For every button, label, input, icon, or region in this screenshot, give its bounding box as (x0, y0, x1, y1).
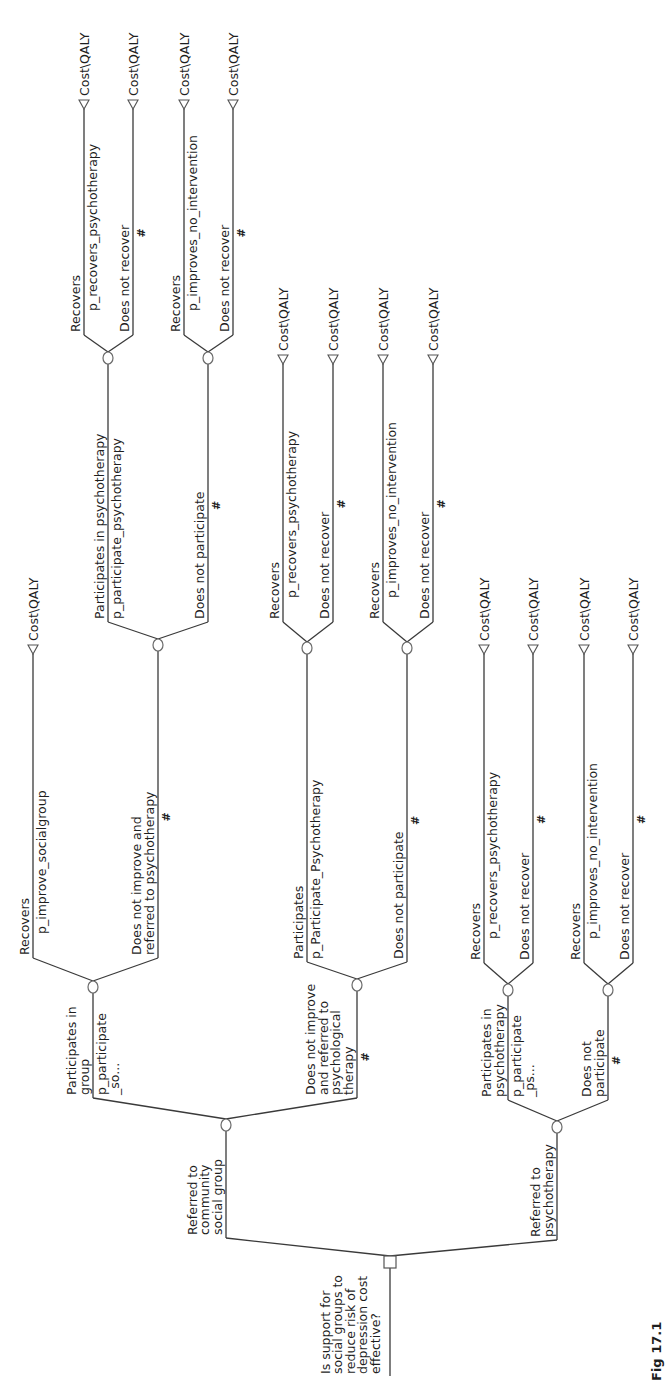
branch-label-t8: Does not recover (417, 511, 432, 619)
edge-diagonal-t9 (484, 963, 508, 984)
decision-tree-diagram: Referred tocommunitysocial groupReferred… (0, 0, 667, 1381)
terminal-node-icon-recovers-sg[interactable] (28, 645, 38, 654)
chance-node-participates-c[interactable] (503, 984, 513, 996)
figure-caption: Fig 17.1 (649, 1322, 664, 1381)
probability-label-t7: p_improves_no_intervention (384, 422, 399, 598)
probability-label-recovers-sg: p_improve_socialgroup (34, 790, 49, 934)
branch-label-community: Referred tocommunitysocial group (185, 1159, 225, 1235)
probability-label-t1: p_recovers_psychotherapy (85, 143, 100, 311)
terminal-node-icon-t10[interactable] (528, 645, 538, 654)
probability-label-notimprove-psych: # (359, 1052, 372, 1061)
payoff-label-t7: Cost\QALY (376, 287, 391, 351)
terminal-node-icon-t1[interactable] (79, 100, 89, 109)
branch-label-t3: Recovers (168, 275, 183, 332)
chance-node-notimprove-psych[interactable] (352, 979, 362, 991)
branch-label-notimprove-referred: Does not improve andreferred to psychoth… (129, 791, 157, 955)
probability-label-t3: p_improves_no_intervention (185, 135, 200, 311)
terminal-node-icon-t4[interactable] (228, 100, 238, 109)
chance-node-notparticipate-b[interactable] (402, 642, 412, 654)
branch-label-t4: Does not recover (217, 224, 232, 332)
figure-caption-fragment: Fig 17.1 (649, 1322, 664, 1381)
branch-label-t12: Does not recover (617, 852, 632, 960)
probability-label-participates-group: p_participate_so... (94, 1013, 122, 1096)
root-question-label: Is support forsocial groups toreduce ris… (318, 1275, 383, 1374)
payoff-label-t2: Cost\QALY (126, 32, 141, 96)
payoff-label-t1: Cost\QALY (77, 32, 92, 96)
payoff-label-t8: Cost\QALY (426, 287, 441, 351)
chance-node-notparticipate-c[interactable] (603, 984, 613, 996)
edge-diagonal-t6 (307, 622, 333, 642)
terminal-node-icon-t3[interactable] (179, 100, 189, 109)
payoff-label-t3: Cost\QALY (177, 32, 192, 96)
branch-label-t6: Does not recover (317, 511, 332, 619)
edge-diagonal-t8 (407, 622, 433, 642)
terminal-node-icon-t5[interactable] (278, 355, 288, 364)
probability-label-participates-b: p_Participate_Psychotherapy (308, 779, 323, 959)
probability-label-t4: # (235, 228, 248, 237)
probability-label-t8: # (435, 499, 448, 508)
terminal-node-icon-t2[interactable] (128, 100, 138, 109)
payoff-label-t11: Cost\QALY (577, 577, 592, 641)
branch-label-participates-psy-a: Participates in psychotherapy (92, 433, 107, 619)
branch-label-t11: Recovers (568, 903, 583, 960)
branch-label-recovers-sg: Recovers (17, 898, 32, 955)
probability-label-participates-c: p_participate_ps... (509, 1015, 537, 1098)
edge-diagonal-t7 (383, 622, 407, 642)
probability-label-notparticipate-b: # (409, 816, 422, 825)
payoff-label-t5: Cost\QALY (276, 287, 291, 351)
probability-label-notparticipate-c: # (610, 1056, 623, 1065)
branch-label-participates-c: Participates inpsychotherapy (479, 1003, 507, 1097)
chance-node-participates-psy-a[interactable] (103, 352, 113, 364)
terminal-node-icon-t6[interactable] (328, 355, 338, 364)
probability-label-t10: # (535, 815, 548, 824)
branch-label-notparticipate-a: Does not participate (192, 491, 207, 619)
probability-label-t9: p_recovers_psychotherapy (485, 771, 500, 939)
terminal-node-icon-t11[interactable] (579, 645, 589, 654)
chance-node-participates-group[interactable] (88, 981, 98, 993)
edge-diagonal-t12 (608, 963, 633, 984)
terminal-node-icon-t7[interactable] (378, 355, 388, 364)
edge-diagonal-participates-group (93, 1098, 226, 1119)
edge-diagonal-t1 (84, 335, 108, 352)
probability-label-t2: # (135, 228, 148, 237)
branch-label-t2: Does not recover (117, 224, 132, 332)
decision-node-square[interactable] (384, 1256, 396, 1268)
chance-node-participates-b[interactable] (302, 642, 312, 654)
edge-diagonal-notparticipate-c (557, 1100, 608, 1121)
branch-label-t9: Recovers (468, 903, 483, 960)
edge-diagonal-t10 (508, 963, 533, 984)
probability-label-t6: # (335, 499, 348, 508)
edge-diagonal-notimprove-psych (226, 1098, 357, 1119)
payoff-label-t4: Cost\QALY (226, 32, 241, 96)
edge-diagonal-psychotherapy (390, 1240, 557, 1256)
payoff-label-t9: Cost\QALY (477, 577, 492, 641)
terminal-node-icon-t12[interactable] (628, 645, 638, 654)
payoff-label-t6: Cost\QALY (326, 287, 341, 351)
edge-diagonal-community (226, 1238, 390, 1256)
edge-diagonal-t3 (184, 335, 208, 352)
chance-node-psychotherapy[interactable] (552, 1121, 562, 1133)
edge-diagonal-participates-b (307, 962, 357, 979)
branch-label-t7: Recovers (367, 562, 382, 619)
probability-label-t5: p_recovers_psychotherapy (284, 430, 299, 598)
edge-diagonal-participates-c (508, 1100, 557, 1121)
chance-node-notimprove-referred[interactable] (153, 639, 163, 651)
root-decision: Is support forsocial groups toreduce ris… (318, 1275, 383, 1374)
edge-diagonal-notparticipate-b (357, 962, 407, 979)
payoff-label-recovers-sg: Cost\QALY (26, 577, 41, 641)
terminal-node-icon-t8[interactable] (428, 355, 438, 364)
branch-label-participates-b: Participates (291, 886, 306, 959)
edge-diagonal-t11 (584, 963, 608, 984)
payoff-label-t10: Cost\QALY (526, 577, 541, 641)
tree-labels: Referred tocommunitysocial groupReferred… (17, 32, 648, 1237)
probability-label-notimprove-referred: # (160, 812, 173, 821)
edge-diagonal-notimprove-referred (93, 958, 158, 981)
terminal-node-icon-t9[interactable] (479, 645, 489, 654)
chance-node-notparticipate-a[interactable] (203, 352, 213, 364)
edge-diagonal-t2 (108, 335, 133, 352)
probability-label-t11: p_improves_no_intervention (585, 763, 600, 939)
edge-diagonal-recovers-sg (33, 958, 93, 981)
probability-label-participates-psy-a: p_participate_psychotherapy (109, 437, 124, 619)
chance-node-community[interactable] (221, 1119, 231, 1131)
payoff-label-t12: Cost\QALY (626, 577, 641, 641)
